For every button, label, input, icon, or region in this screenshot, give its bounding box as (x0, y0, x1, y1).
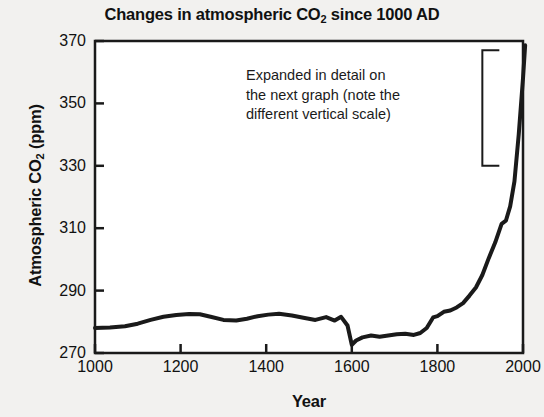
x-tick-label: 1600 (312, 357, 392, 377)
annotation-text: Expanded in detail on the next graph (no… (246, 66, 472, 125)
x-tick-label: 1400 (226, 357, 306, 377)
chart-title-subscript: 2 (320, 13, 326, 25)
x-tick-label-text: 1000 (55, 357, 135, 377)
x-tick-label-text: 1200 (141, 357, 221, 377)
x-tick-label: 1200 (141, 357, 221, 377)
y-tick-label: 310 (30, 220, 86, 236)
y-tick-label-text: 350 (30, 95, 86, 111)
x-tick-label-text: 1800 (397, 357, 477, 377)
chart-title: Changes in atmospheric CO2 since 1000 AD (0, 4, 544, 26)
co2-chart-figure: Changes in atmospheric CO2 since 1000 AD… (0, 0, 544, 417)
y-tick-label-text: 290 (30, 283, 86, 299)
y-tick-label: 370 (30, 33, 86, 49)
y-axis-title-text-after: (ppm) (26, 104, 44, 153)
y-tick-label: 290 (30, 283, 86, 299)
annotation-line-3: different vertical scale) (246, 105, 472, 125)
chart-title-text-after: since 1000 AD (326, 5, 439, 23)
y-tick-label-text: 370 (30, 33, 86, 49)
y-tick-label-text: 330 (30, 158, 86, 174)
x-tick-label: 1000 (55, 357, 135, 377)
x-tick-label-text: 2000 (483, 357, 544, 377)
x-tick-label-text: 1600 (312, 357, 392, 377)
y-tick-label-text: 310 (30, 220, 86, 236)
annotation-line-2: the next graph (note the (246, 86, 472, 106)
annotation-line-1: Expanded in detail on (246, 66, 472, 86)
x-tick-label: 1800 (397, 357, 477, 377)
x-axis-title: Year (95, 392, 523, 411)
x-tick-label: 2000 (483, 357, 544, 377)
y-tick-label: 350 (30, 95, 86, 111)
chart-title-text-before: Changes in atmospheric CO (105, 5, 321, 23)
x-tick-label-text: 1400 (226, 357, 306, 377)
y-tick-label: 330 (30, 158, 86, 174)
